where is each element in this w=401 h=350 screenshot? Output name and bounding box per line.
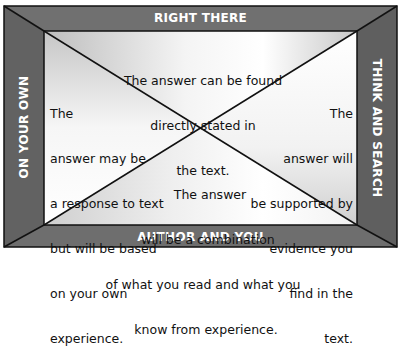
text-author-and-you: The answer will be a combination of what… (90, 157, 316, 350)
text-line: will be a combination (90, 232, 316, 247)
text-line: The answer (90, 187, 316, 202)
text-line: The (250, 106, 353, 121)
label-on-your-own: ON YOUR OWN (18, 76, 30, 179)
label-right-there: RIGHT THERE (0, 12, 401, 24)
text-line: know from experience. (90, 322, 316, 337)
text-line: of what you read and what you (90, 277, 316, 292)
text-line: The (50, 106, 164, 121)
label-think-and-search: THINK AND SEARCH (371, 59, 383, 198)
